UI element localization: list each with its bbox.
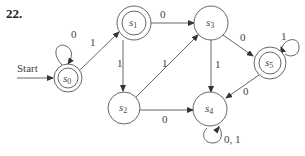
edge-label-s2-s3: 1 xyxy=(162,57,168,69)
edge-label-s4-s4: 0, 1 xyxy=(224,133,241,145)
state-s5: s5 xyxy=(254,47,286,79)
edge-s0-s0 xyxy=(56,45,72,65)
problem-number: 22. xyxy=(6,6,22,21)
automaton-diagram: 22. Start 0 1 0 1 1 0 0 1 1 0 0, 1 s0 s1 xyxy=(0,0,305,156)
edge-label-s2-s4: 0 xyxy=(162,113,168,125)
edge-s0-s1 xyxy=(80,32,119,70)
edge-label-s0-s0: 0 xyxy=(71,28,77,40)
edge-label-s0-s1: 1 xyxy=(90,36,96,48)
start-label: Start xyxy=(17,62,38,74)
edge-label-s3-s4: 1 xyxy=(215,58,221,70)
edge-s5-s5 xyxy=(281,40,299,56)
state-s3: s3 xyxy=(194,6,228,40)
state-s4: s4 xyxy=(193,92,227,126)
edge-label-s5-s4: 0 xyxy=(243,85,249,97)
edge-s3-s5 xyxy=(223,35,253,56)
state-s1: s1 xyxy=(117,6,151,40)
state-s2: s2 xyxy=(108,92,140,124)
edge-label-s1-s3: 0 xyxy=(160,8,166,20)
edge-label-s5-s5: 1 xyxy=(281,30,287,42)
state-s0: s0 xyxy=(54,64,82,92)
edge-label-s1-s2: 1 xyxy=(117,57,123,69)
edge-s4-s4 xyxy=(204,126,222,143)
edge-label-s3-s5: 0 xyxy=(240,31,246,43)
